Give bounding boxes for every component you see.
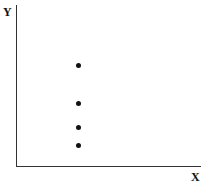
y-axis-label: Y xyxy=(3,5,12,20)
data-point xyxy=(76,143,81,148)
y-axis xyxy=(16,5,17,167)
data-point xyxy=(76,125,81,130)
data-point xyxy=(76,63,81,68)
data-point xyxy=(76,101,81,106)
x-axis-label: X xyxy=(191,170,200,185)
x-axis xyxy=(16,166,201,167)
